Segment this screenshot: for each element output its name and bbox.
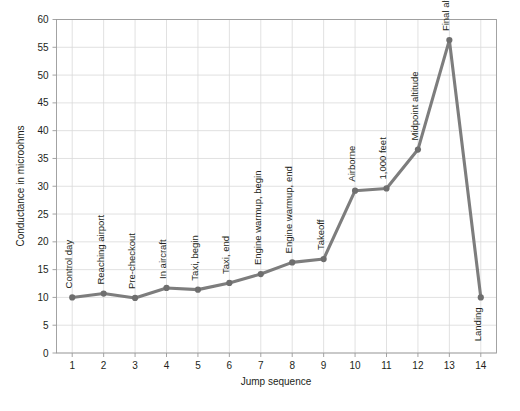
chart-container: 051015202530354045505560 123456789101112… (0, 0, 520, 411)
data-point-label: In aircraft (158, 239, 169, 279)
y-tick-label: 10 (37, 292, 49, 303)
y-tick-label: 45 (37, 97, 49, 108)
data-point (383, 185, 389, 191)
data-point-label: Final altitude (440, 0, 451, 31)
data-point (132, 295, 138, 301)
data-point-label: Engine warmup, begin (252, 171, 263, 266)
data-point (478, 294, 484, 300)
x-tick-label: 1 (69, 360, 75, 371)
data-point-label: Pre-checkout (126, 233, 137, 289)
y-tick-label: 5 (43, 320, 49, 331)
data-point (163, 285, 169, 291)
data-point-label: 1,000 feet (378, 137, 389, 180)
data-point (415, 146, 421, 152)
data-point (446, 37, 452, 43)
x-tick-label: 3 (132, 360, 138, 371)
y-tick-label: 15 (37, 264, 49, 275)
data-point-label: Airborne (346, 146, 357, 182)
x-tick-label: 2 (101, 360, 107, 371)
y-tick-label: 20 (37, 236, 49, 247)
y-tick-label: 0 (43, 348, 49, 359)
data-point (195, 287, 201, 293)
data-point-label: Reaching airport (95, 214, 106, 284)
x-tick-label: 11 (381, 360, 392, 371)
x-tick-label: 6 (227, 360, 233, 371)
x-tick-label: 12 (412, 360, 424, 371)
y-tick-label: 60 (37, 14, 49, 25)
line-chart: 051015202530354045505560 123456789101112… (0, 0, 520, 411)
y-tick-label: 50 (37, 70, 49, 81)
data-point (289, 259, 295, 265)
data-point-label: Taxi, begin (189, 235, 200, 280)
data-point-label: Landing (472, 307, 483, 341)
y-tick-label: 55 (37, 42, 49, 53)
data-point (69, 294, 75, 300)
data-point (258, 271, 264, 277)
y-tick-label: 30 (37, 181, 49, 192)
x-tick-label: 4 (164, 360, 170, 371)
x-tick-label: 7 (258, 360, 264, 371)
x-tick-label: 14 (475, 360, 487, 371)
x-tick-label: 13 (444, 360, 456, 371)
y-tick-label: 35 (37, 153, 49, 164)
data-point (101, 290, 107, 296)
x-tick-label: 9 (321, 360, 327, 371)
data-point (352, 188, 358, 194)
x-axis-title: Jump sequence (241, 376, 312, 387)
data-point-label: Control day (63, 240, 74, 289)
y-tick-label: 40 (37, 125, 49, 136)
data-point (226, 280, 232, 286)
data-point-label: Engine warmup, end (283, 166, 294, 253)
data-point-label: Takeoff (315, 219, 326, 250)
y-tick-label: 25 (37, 209, 49, 220)
x-tick-label: 5 (195, 360, 201, 371)
data-point-label: Taxi, end (220, 236, 231, 274)
data-point-label: Midpoint altitude (409, 71, 420, 140)
x-tick-label: 8 (289, 360, 295, 371)
data-point (321, 256, 327, 262)
x-tick-label: 10 (350, 360, 362, 371)
y-axis-title: Conductance in microohms (15, 125, 26, 246)
